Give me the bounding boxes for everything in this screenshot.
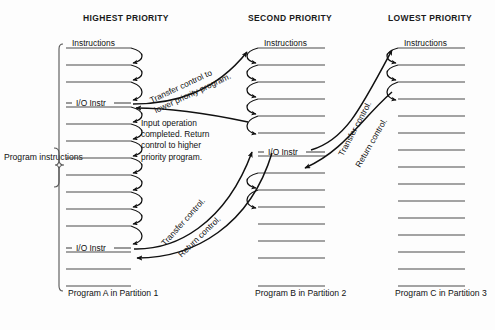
flow-return-b2-to-a2 — [137, 153, 272, 258]
flow-return-b-to-a — [136, 108, 248, 122]
flow-return-c-to-b — [305, 92, 392, 168]
program-instructions-brace — [54, 148, 64, 187]
instruction-lines-program-a — [66, 48, 131, 286]
flow-transfer-a2-to-b2 — [134, 152, 252, 249]
flow-transfer-a-to-b — [133, 52, 247, 104]
instruction-lines-program-b — [258, 48, 325, 286]
sequence-arcs-program-a — [131, 48, 142, 244]
instruction-lines-program-c — [398, 48, 465, 286]
diagram-vector-layer — [0, 0, 495, 330]
diagram-canvas: HIGHEST PRIORITY SECOND PRIORITY LOWEST … — [0, 0, 495, 330]
sequence-arcs-program-b — [247, 48, 258, 208]
